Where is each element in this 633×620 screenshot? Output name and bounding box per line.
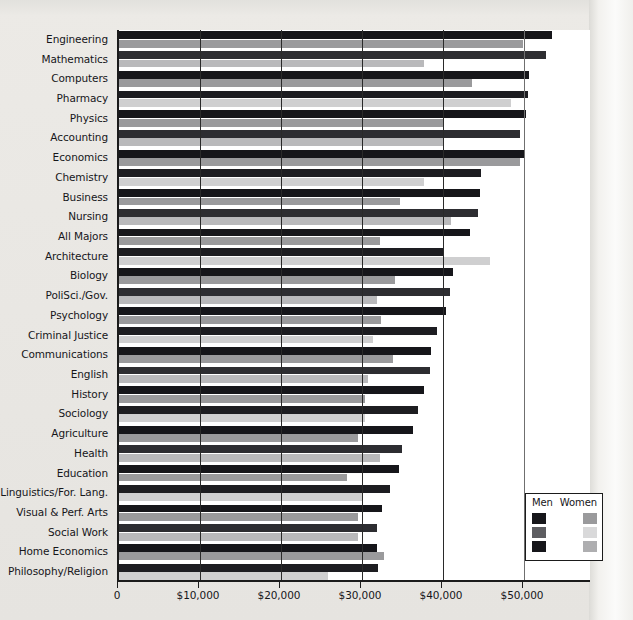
bar-group	[119, 129, 590, 149]
bar-men	[119, 189, 480, 197]
x-tick	[441, 582, 442, 588]
category-label: Business	[0, 192, 108, 203]
category-label: Agriculture	[0, 428, 108, 439]
category-label: Computers	[0, 73, 108, 84]
bar-men	[119, 150, 524, 158]
bar-women	[119, 533, 358, 541]
bar-group	[119, 385, 590, 405]
category-label: History	[0, 389, 108, 400]
category-label: Engineering	[0, 34, 108, 45]
bar-men	[119, 31, 552, 39]
bar-group	[119, 168, 590, 188]
gridline	[362, 30, 363, 580]
x-tick-label: 0	[114, 589, 121, 601]
bar-group	[119, 30, 590, 50]
bar-group	[119, 444, 590, 464]
bar-group	[119, 207, 590, 227]
bar-men	[119, 110, 526, 118]
bar-women	[119, 513, 358, 521]
bar-men	[119, 367, 430, 375]
category-label: Sociology	[0, 408, 108, 419]
legend-swatch-women	[583, 541, 597, 552]
bar-men	[119, 386, 424, 394]
bar-group	[119, 148, 590, 168]
bar-group	[119, 247, 590, 267]
x-tick-label: $10,000	[177, 589, 220, 601]
bar-group	[119, 306, 590, 326]
bar-women	[119, 60, 424, 68]
bar-group	[119, 562, 590, 582]
category-label: Chemistry	[0, 172, 108, 183]
category-label: Biology	[0, 270, 108, 281]
legend-swatch-men	[532, 527, 546, 538]
legend-label-women: Women	[560, 497, 597, 509]
bar-men	[119, 564, 378, 572]
bar-men	[119, 327, 437, 335]
bar-women	[119, 493, 362, 501]
category-label: PoliSci./Gov.	[0, 290, 108, 301]
bar-women	[119, 276, 395, 284]
bar-men	[119, 268, 453, 276]
legend-spacer	[553, 497, 560, 509]
category-label: Education	[0, 468, 108, 479]
bar-women	[119, 474, 347, 482]
bar-men	[119, 91, 528, 99]
bar-men	[119, 505, 382, 513]
gridline	[200, 30, 201, 580]
plot-inner	[119, 30, 590, 580]
bar-women	[119, 454, 380, 462]
x-tick	[522, 582, 523, 588]
bar-women	[119, 552, 384, 560]
category-label: Pharmacy	[0, 93, 108, 104]
bar-men	[119, 524, 377, 532]
bar-men	[119, 347, 431, 355]
bar-men	[119, 51, 546, 59]
category-label: Criminal Justice	[0, 330, 108, 341]
plot-area	[117, 30, 590, 582]
bar-men	[119, 465, 399, 473]
bar-women	[119, 178, 424, 186]
bar-group	[119, 464, 590, 484]
bar-women	[119, 296, 377, 304]
bar-women	[119, 336, 373, 344]
legend-swatch-men	[532, 541, 546, 552]
chart-page: EngineeringMathematicsComputersPharmacyP…	[0, 0, 633, 620]
category-label: Communications	[0, 349, 108, 360]
bar-group	[119, 523, 590, 543]
legend-swatch-women	[583, 513, 597, 524]
bar-women	[119, 217, 451, 225]
bar-chart: EngineeringMathematicsComputersPharmacyP…	[0, 0, 633, 620]
bar-group	[119, 50, 590, 70]
category-label: Economics	[0, 152, 108, 163]
category-label: Mathematics	[0, 54, 108, 65]
bar-group	[119, 424, 590, 444]
bar-men	[119, 307, 446, 315]
bar-women	[119, 355, 393, 363]
bar-women	[119, 434, 358, 442]
bar-women	[119, 257, 490, 265]
bar-group	[119, 188, 590, 208]
bar-group	[119, 405, 590, 425]
category-label: Architecture	[0, 251, 108, 262]
category-label: Health	[0, 448, 108, 459]
bar-group	[119, 227, 590, 247]
category-label: Visual & Perf. Arts	[0, 507, 108, 518]
bar-men	[119, 426, 413, 434]
legend-headers: Men Women	[532, 497, 597, 509]
bar-men	[119, 485, 390, 493]
bar-women	[119, 99, 511, 107]
bar-men	[119, 169, 481, 177]
bar-men	[119, 544, 377, 552]
bar-women	[119, 572, 328, 580]
legend-label-men: Men	[532, 497, 553, 509]
bar-women	[119, 198, 400, 206]
bar-men	[119, 209, 478, 217]
bar-group	[119, 483, 590, 503]
x-axis-labels: 0$10,000$20,000$30,000$40,000$50,000	[0, 589, 633, 605]
bar-group	[119, 543, 590, 563]
bar-women	[119, 414, 365, 422]
bar-group	[119, 286, 590, 306]
legend-row	[532, 511, 597, 525]
gridline	[281, 30, 282, 580]
bar-women	[119, 395, 365, 403]
